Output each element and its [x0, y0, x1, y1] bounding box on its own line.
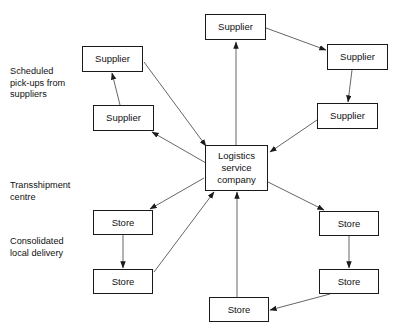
node-label: Supplier	[218, 21, 253, 33]
edge-supplier-upper-right-to-lower-right	[348, 70, 352, 102]
node-supplier-top[interactable]: Supplier	[205, 14, 266, 40]
node-label: Store	[338, 276, 361, 288]
edge-hub-to-store-upper-left	[150, 178, 204, 209]
edge-hub-to-supplier-upper-left	[144, 62, 206, 146]
node-label: Store	[112, 217, 135, 229]
node-label: Supplier	[330, 110, 365, 122]
node-label: Store	[228, 304, 251, 316]
node-logistics-service-company[interactable]: Logistics service company	[205, 145, 268, 191]
node-store-bottom-centre[interactable]: Store	[209, 297, 269, 322]
margin-label-consolidated-delivery: Consolidated local delivery	[10, 236, 105, 259]
node-store-upper-left[interactable]: Store	[93, 210, 153, 235]
node-supplier-lower-right[interactable]: Supplier	[317, 103, 378, 129]
node-store-upper-right[interactable]: Store	[319, 211, 379, 236]
node-supplier-upper-right[interactable]: Supplier	[327, 44, 388, 70]
edge-supplier-lower-right-to-hub	[270, 120, 317, 152]
node-label: Supplier	[106, 112, 141, 124]
node-supplier-lower-left[interactable]: Supplier	[93, 105, 154, 131]
node-supplier-upper-left[interactable]: Supplier	[82, 46, 143, 72]
edge-supplier-lower-left-to-upper-left	[112, 73, 120, 105]
node-label: Supplier	[340, 51, 375, 63]
node-store-lower-left[interactable]: Store	[93, 269, 153, 294]
edge-hub-to-supplier-lower-left	[152, 132, 206, 163]
edge-hub-to-store-upper-right	[268, 182, 324, 210]
margin-label-transshipment-centre: Transshipment centre	[10, 180, 105, 203]
edge-suppliertop-to-supplier-upper-right	[266, 28, 326, 50]
node-store-lower-right[interactable]: Store	[319, 269, 379, 294]
node-label: Store	[112, 276, 135, 288]
edge-store-lower-left-to-hub	[154, 192, 214, 272]
diagram-canvas: Supplier Supplier Supplier Supplier Supp…	[0, 0, 400, 333]
node-label: Supplier	[95, 53, 130, 65]
hub-label-line-2: service	[221, 162, 251, 174]
node-label: Store	[338, 218, 361, 230]
hub-label-line-1: Logistics	[218, 150, 255, 162]
hub-label-line-3: company	[217, 174, 256, 186]
edge-store-lower-right-to-bottom-centre	[270, 294, 330, 310]
